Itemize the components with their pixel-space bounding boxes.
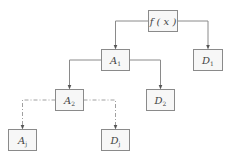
node-d1: D1: [194, 50, 223, 71]
node-aj: Aj: [9, 130, 37, 151]
edge-fx-to-a1: [116, 21, 149, 46]
edge-a1-to-d2: [130, 60, 161, 86]
wavelet-decomposition-tree: f ( x )A1D1A2D2AjDj: [0, 0, 228, 161]
edges-layer: [21, 21, 210, 130]
node-label-subscript: 1: [210, 60, 214, 67]
node-a2: A2: [56, 90, 84, 111]
arrowhead-icon: [21, 125, 25, 130]
node-dj: Dj: [102, 130, 130, 151]
node-fx: f ( x ): [149, 11, 178, 32]
node-label: f ( x ): [149, 16, 177, 27]
node-label-subscript: j: [24, 140, 27, 148]
node-label-main: A: [109, 55, 117, 66]
node-label-subscript: 2: [163, 100, 167, 107]
arrowhead-icon: [114, 125, 118, 130]
node-label-subscript: 2: [71, 100, 75, 107]
arrowhead-icon: [68, 85, 72, 90]
node-label-main: A: [17, 135, 25, 146]
edge-a2-to-dj: [84, 100, 116, 126]
arrowhead-icon: [159, 85, 163, 90]
edge-a2-to-aj: [23, 100, 56, 126]
node-d2: D2: [147, 90, 175, 111]
node-label-main: D: [110, 135, 119, 146]
edge-a1-to-a2: [70, 60, 102, 86]
arrowhead-icon: [206, 45, 210, 50]
node-label-subscript: 1: [117, 60, 121, 67]
node-a1: A1: [102, 50, 130, 71]
node-label-main: D: [201, 55, 210, 66]
edge-fx-to-d1: [178, 21, 209, 46]
node-label-main: f ( x ): [149, 16, 177, 27]
node-label-main: D: [154, 95, 163, 106]
node-label-main: A: [63, 95, 71, 106]
node-label-subscript: j: [118, 140, 121, 148]
arrowhead-icon: [114, 45, 118, 50]
